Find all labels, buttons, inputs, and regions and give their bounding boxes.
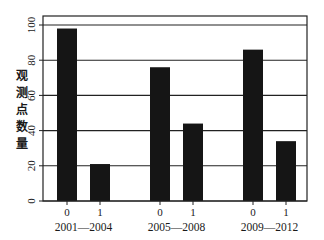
bar-chart: 020406080100 012001—2004012005—200801200…	[0, 0, 324, 240]
x-tick-label: 0	[64, 206, 70, 218]
y-tick-label: 80	[25, 54, 37, 65]
x-tick-label: 1	[283, 206, 289, 218]
x-tick-label: 0	[250, 206, 256, 218]
grid-lines	[43, 25, 307, 201]
y-axis-label-char: 点	[16, 102, 28, 117]
y-axis-label-char: 观	[16, 69, 28, 83]
bar	[183, 124, 203, 201]
bar	[150, 67, 170, 201]
group-label: 2005—2008	[148, 221, 206, 233]
y-tick-label: 0	[25, 198, 37, 204]
y-axis-label-char: 数	[16, 119, 29, 134]
y-axis-label-char: 量	[16, 137, 28, 151]
x-tick-label: 1	[190, 206, 196, 218]
x-tick-label: 0	[157, 206, 163, 218]
x-axis-ticks: 012001—2004012005—2008012009—2012	[55, 201, 299, 233]
bar	[90, 164, 110, 201]
group-label: 2009—2012	[241, 221, 299, 233]
y-axis-label: 观测点数量	[16, 69, 29, 151]
x-tick-label: 1	[97, 206, 103, 218]
bar	[276, 141, 296, 201]
group-label: 2001—2004	[55, 221, 113, 233]
plot-frame	[43, 16, 307, 201]
bar	[57, 29, 77, 201]
bars	[57, 29, 296, 201]
y-tick-label: 20	[25, 160, 37, 172]
y-axis-label-char: 测	[16, 85, 28, 100]
y-tick-label: 100	[25, 16, 37, 33]
bar	[243, 50, 263, 201]
